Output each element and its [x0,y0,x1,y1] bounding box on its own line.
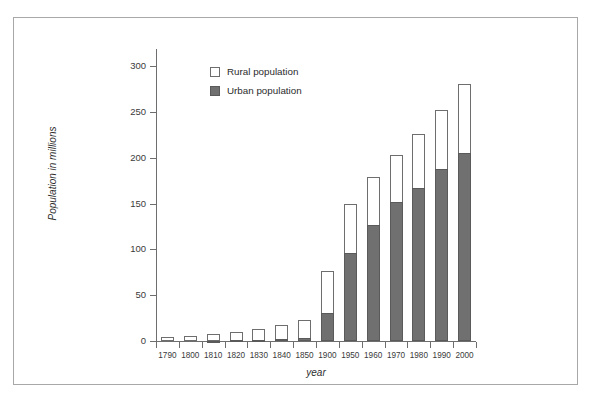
bar-segment-urban [390,202,403,341]
y-tick-label: 100 [100,244,146,254]
bar-stack [184,336,197,341]
bar-segment-urban [230,340,243,342]
x-tick-mark [385,342,386,348]
bar-stack [230,332,243,341]
y-axis-line [156,49,157,341]
legend-item-urban: Urban population [210,83,302,98]
screenshot-canvas: 050100150200250300 179018001810182018301… [0,0,595,401]
y-axis-title: Population in millions [47,94,58,254]
y-tick-mark [150,295,157,296]
y-tick-mark [150,158,157,159]
x-tick-mark [225,342,226,348]
x-tick-mark [476,342,477,348]
bar-segment-urban [275,339,288,341]
x-tick-mark [362,342,363,348]
bar-stack [458,84,471,341]
bar-segment-urban [321,313,334,341]
x-tick-mark [407,342,408,348]
y-tick-label-text: 150 [106,199,146,208]
figure-frame: 050100150200250300 179018001810182018301… [13,17,578,385]
x-tick-mark [339,342,340,348]
x-tick-mark [430,342,431,348]
bar-segment-urban [252,340,265,342]
bar-stack [161,337,174,341]
y-tick-label: 150 [100,199,146,209]
bar-stack [298,320,311,341]
bar-segment-urban [207,341,220,343]
bar-stack [390,155,403,341]
x-axis-title: year [156,367,476,378]
y-tick-label: 200 [100,153,146,163]
y-tick-mark [150,112,157,113]
bar-segment-rural [184,336,197,341]
bar-stack [367,177,380,341]
y-tick-label-text: 200 [106,153,146,162]
bar-segment-urban [435,169,448,341]
x-tick-mark [293,342,294,348]
y-tick-mark [150,204,157,205]
legend-label-rural: Rural population [227,66,298,77]
y-tick-label: 300 [100,61,146,71]
y-tick-label-text: 50 [106,290,146,299]
legend-label-urban: Urban population [227,85,302,96]
y-tick-label: 250 [100,107,146,117]
bar-stack [435,110,448,341]
bar-stack [321,271,334,341]
bar-stack [275,325,288,341]
bar-segment-urban [458,153,471,341]
legend-swatch-rural-icon [210,67,220,77]
y-tick-label-text: 250 [106,107,146,116]
y-tick-label-text: 300 [106,61,146,70]
bar-stack [412,134,425,341]
legend-swatch-urban-icon [210,86,220,96]
y-tick-label: 50 [100,290,146,300]
x-tick-mark [202,342,203,348]
x-tick-mark [179,342,180,348]
bar-segment-urban [298,338,311,341]
x-tick-mark [270,342,271,348]
x-tick-mark [316,342,317,348]
bar-segment-urban [344,253,357,341]
chart-plot-area: 050100150200250300 179018001810182018301… [14,18,579,386]
y-tick-label: 0 [100,336,146,346]
bar-stack [344,204,357,342]
y-tick-mark [150,66,157,67]
bar-segment-urban [367,225,380,341]
bar-segment-rural [161,337,174,341]
x-tick-mark [247,342,248,348]
y-tick-label-text: 0 [106,336,146,345]
bar-stack [207,334,220,341]
y-tick-mark [150,249,157,250]
x-tick-mark [156,342,157,348]
y-tick-label-text: 100 [106,244,146,253]
x-tick-label: 2000 [448,351,482,361]
bar-stack [252,329,265,341]
chart-legend: Rural population Urban population [210,64,302,102]
bar-segment-urban [412,188,425,341]
x-tick-mark [453,342,454,348]
legend-item-rural: Rural population [210,64,302,79]
